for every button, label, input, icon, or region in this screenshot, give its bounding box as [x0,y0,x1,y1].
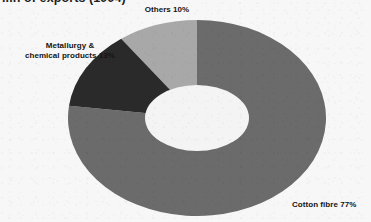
slice-label-metallurgy-line1: Metallurgy & [14,41,126,51]
slice-label-metallurgy: Metallurgy & chemical products 13% [14,41,126,61]
slice-label-others: Others 10% [122,5,212,15]
chart-page: ...n of exports (1994) Others 10% Metall… [0,0,371,222]
slice-label-cotton-fibre: Cotton fibre 77% [292,200,370,210]
donut-hole [145,85,249,151]
slice-label-metallurgy-line2: chemical products 13% [14,51,126,61]
